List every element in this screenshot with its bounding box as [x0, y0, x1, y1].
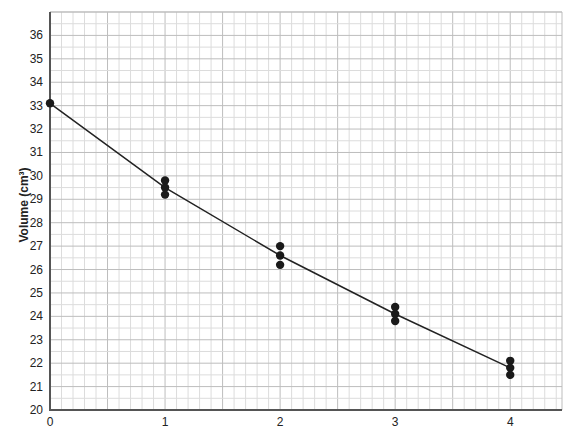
data-point	[161, 190, 169, 198]
y-tick-label: 26	[30, 263, 44, 277]
y-tick-label: 23	[30, 333, 44, 347]
x-tick-label: 4	[507, 415, 514, 429]
y-tick-label: 36	[30, 28, 44, 42]
y-tick-label: 20	[30, 403, 44, 417]
y-tick-label: 28	[30, 216, 44, 230]
y-tick-label: 31	[30, 145, 44, 159]
data-point	[391, 317, 399, 325]
y-tick-label: 22	[30, 356, 44, 370]
y-tick-label: 24	[30, 309, 44, 323]
data-point	[276, 251, 284, 259]
data-point	[276, 261, 284, 269]
y-tick-label: 27	[30, 239, 44, 253]
data-point	[276, 242, 284, 250]
data-point	[46, 99, 54, 107]
y-tick-label: 29	[30, 192, 44, 206]
grid	[50, 12, 562, 410]
y-tick-label: 25	[30, 286, 44, 300]
data-point	[506, 371, 514, 379]
y-tick-label: 34	[30, 75, 44, 89]
y-tick-label: 35	[30, 52, 44, 66]
chart-canvas: 202122232425262728293031323334353601234	[0, 0, 572, 437]
y-tick-label: 32	[30, 122, 44, 136]
x-tick-label: 0	[47, 415, 54, 429]
y-tick-label: 21	[30, 380, 44, 394]
x-tick-label: 1	[162, 415, 169, 429]
x-tick-label: 2	[277, 415, 284, 429]
y-tick-label: 33	[30, 99, 44, 113]
y-tick-label: 30	[30, 169, 44, 183]
x-tick-label: 3	[392, 415, 399, 429]
